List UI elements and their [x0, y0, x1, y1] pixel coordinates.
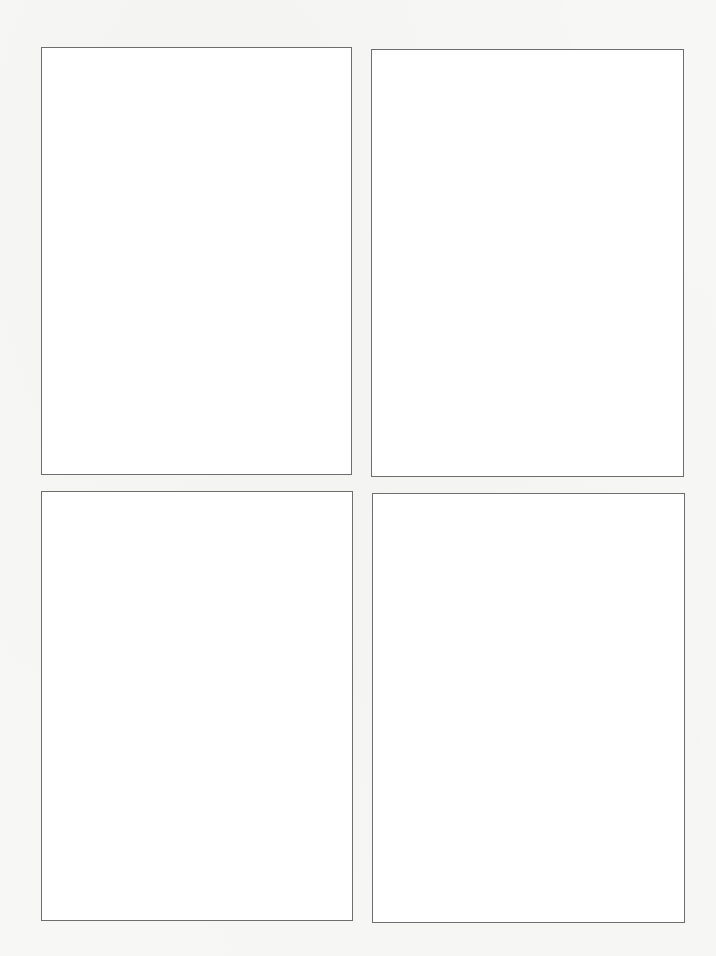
empty-panel-top-left: [41, 47, 352, 475]
empty-panel-top-right: [371, 49, 684, 477]
empty-panel-bottom-right: [372, 493, 685, 923]
empty-panel-bottom-left: [41, 491, 353, 921]
scanned-page: [0, 0, 716, 956]
